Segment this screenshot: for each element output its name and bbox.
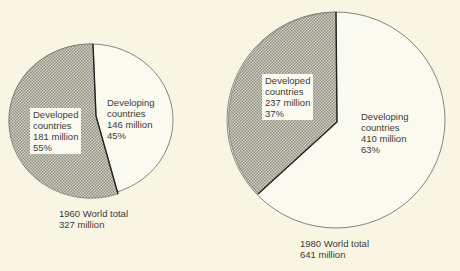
pie-1980 xyxy=(227,12,445,228)
label-1960-developed: Developed countries 181 million 55% xyxy=(30,108,81,154)
caption-title: 1960 World total xyxy=(59,208,128,219)
caption-total: 327 million xyxy=(59,219,128,230)
label-1960-developing: Developing countries 146 million 45% xyxy=(107,97,155,141)
label-text: Developing xyxy=(107,97,155,108)
caption-title: 1980 World total xyxy=(300,238,369,249)
label-value: 146 million xyxy=(107,119,155,130)
label-value: 181 million xyxy=(33,131,78,142)
label-text: Developed xyxy=(265,75,310,86)
label-value: 237 million xyxy=(265,97,310,108)
label-percent: 45% xyxy=(107,130,155,141)
label-text: countries xyxy=(33,120,78,131)
label-text: countries xyxy=(107,108,155,119)
label-percent: 37% xyxy=(265,108,310,119)
caption-1960: 1960 World total 327 million xyxy=(59,208,128,230)
caption-1980: 1980 World total 641 million xyxy=(300,238,369,260)
caption-total: 641 million xyxy=(300,249,369,260)
label-1980-developed: Developed countries 237 million 37% xyxy=(262,74,313,120)
label-percent: 63% xyxy=(361,144,409,155)
label-1980-developing: Developing countries 410 million 63% xyxy=(361,111,409,155)
label-value: 410 million xyxy=(361,133,409,144)
label-text: countries xyxy=(361,122,409,133)
label-text: Developed xyxy=(33,109,78,120)
label-text: countries xyxy=(265,86,310,97)
label-percent: 55% xyxy=(33,142,78,153)
label-text: Developing xyxy=(361,111,409,122)
